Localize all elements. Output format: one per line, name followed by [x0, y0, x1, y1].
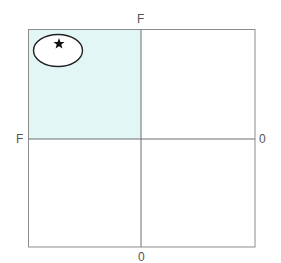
- axis-label-left: F: [16, 133, 23, 145]
- quadrant-grid: [0, 0, 281, 263]
- quadrant-diagram: F F 0 0: [0, 0, 281, 263]
- marker-ellipse: [34, 35, 83, 67]
- axis-label-bottom: 0: [138, 251, 145, 263]
- axis-label-right: 0: [259, 133, 266, 145]
- axis-label-top: F: [137, 13, 144, 25]
